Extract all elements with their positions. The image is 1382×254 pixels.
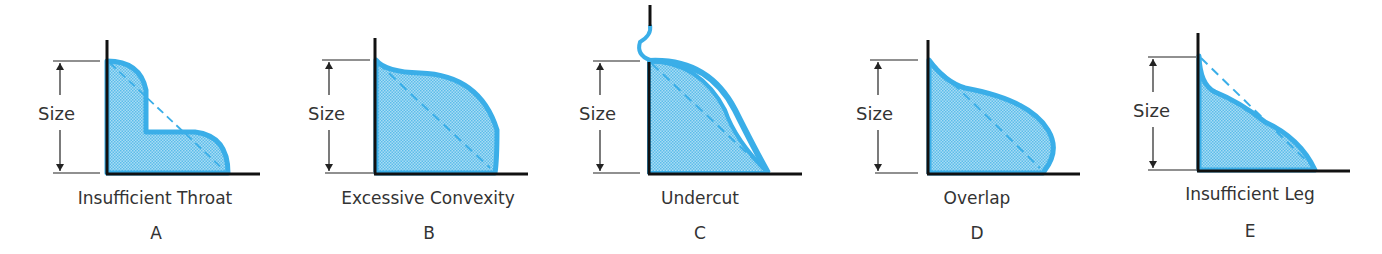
panel-e: Size Insufficient Leg E (1133, 33, 1350, 241)
size-dimension: Size (308, 60, 373, 173)
panel-caption: Undercut (661, 188, 739, 208)
size-dimension: Size (579, 61, 640, 173)
panel-caption: Overlap (944, 188, 1011, 208)
size-dimension: Size (38, 61, 100, 173)
size-dimension: Size (856, 60, 918, 173)
undercut-groove (639, 25, 650, 60)
panel-caption: Insufficient Throat (78, 188, 233, 208)
panel-letter: B (423, 223, 435, 243)
panel-c: Size Undercut C (579, 5, 802, 243)
size-label: Size (579, 103, 616, 124)
panel-letter: A (150, 223, 162, 243)
panel-d: Size Overlap D (856, 40, 1080, 243)
panel-letter: D (970, 223, 983, 243)
panel-letter: E (1245, 221, 1256, 241)
size-label: Size (38, 103, 75, 124)
panel-letter: C (694, 223, 706, 243)
panel-caption: Excessive Convexity (341, 188, 514, 208)
weld-defects-diagram: Size Insufficient Throat A Size Excessiv… (0, 0, 1382, 254)
size-label: Size (308, 103, 345, 124)
panel-b: Size Excessive Convexity B (308, 38, 528, 243)
panel-a: Size Insufficient Throat A (38, 40, 260, 243)
size-label: Size (856, 103, 893, 124)
size-label: Size (1133, 100, 1170, 121)
size-dimension: Size (1133, 57, 1196, 170)
panel-caption: Insufficient Leg (1185, 184, 1315, 204)
